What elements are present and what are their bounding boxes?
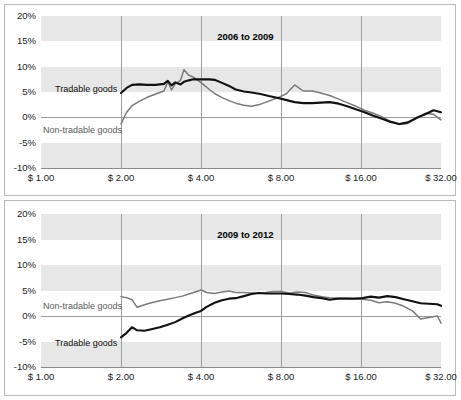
series-label-tradable-bottom: Tradable goods xyxy=(55,338,117,348)
y-axis-tick-label: 0% xyxy=(5,112,36,122)
x-axis-tick-label: $ 8.00 xyxy=(268,371,294,382)
x-axis-tick-label: $ 2.00 xyxy=(108,172,134,183)
series-line xyxy=(121,70,441,125)
chart-panel-top: 2006 to 2009 Tradable goods Non-tradable… xyxy=(4,4,456,196)
axis-line-bottom xyxy=(41,367,441,368)
y-axis-tick-label: 20% xyxy=(5,209,36,219)
series-label-tradable-top: Tradable goods xyxy=(55,84,117,94)
y-axis-tick-label: 20% xyxy=(5,11,36,21)
series-label-nontradable-bottom: Non-tradable goods xyxy=(43,301,122,311)
chart-panel-top-inner: 2006 to 2009 Tradable goods Non-tradable… xyxy=(5,5,455,195)
axis-line-bottom xyxy=(41,168,441,169)
x-axis-tick-label: $ 16.00 xyxy=(345,371,377,382)
chart-panel-bottom-inner: 2009 to 2012 Non-tradable goods Tradable… xyxy=(5,201,455,395)
y-axis-tick-label: -5% xyxy=(5,138,36,148)
x-axis-tick-label: $ 32.00 xyxy=(425,172,457,183)
y-axis-tick-label: 10% xyxy=(5,62,36,72)
x-axis-tick-label: $ 1.00 xyxy=(28,172,54,183)
x-axis-tick-label: $ 8.00 xyxy=(268,172,294,183)
x-axis-tick-label: $ 1.00 xyxy=(28,371,54,382)
x-axis-tick-label: $ 4.00 xyxy=(188,172,214,183)
y-axis-tick-label: 15% xyxy=(5,36,36,46)
chart-title-bottom: 2009 to 2012 xyxy=(217,229,274,240)
y-axis-tick-label: -5% xyxy=(5,337,36,347)
y-axis-tick-label: 5% xyxy=(5,286,36,296)
x-axis-tick-label: $ 32.00 xyxy=(425,371,457,382)
series-label-nontradable-top: Non-tradable goods xyxy=(43,125,122,135)
y-axis-tick-label: 10% xyxy=(5,260,36,270)
figure-root: 2006 to 2009 Tradable goods Non-tradable… xyxy=(0,0,461,400)
y-axis-tick-label: 5% xyxy=(5,87,36,97)
series-line xyxy=(121,290,441,323)
y-axis-tick-label: 15% xyxy=(5,235,36,245)
x-axis-tick-label: $ 4.00 xyxy=(188,371,214,382)
chart-title-top: 2006 to 2009 xyxy=(217,31,274,42)
x-axis-tick-label: $ 16.00 xyxy=(345,172,377,183)
x-axis-tick-label: $ 2.00 xyxy=(108,371,134,382)
y-axis-tick-label: 0% xyxy=(5,311,36,321)
chart-panel-bottom: 2009 to 2012 Non-tradable goods Tradable… xyxy=(4,200,456,396)
series-line xyxy=(121,293,441,337)
